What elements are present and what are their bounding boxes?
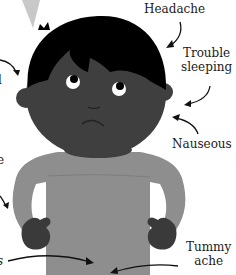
light-ray <box>22 0 40 28</box>
label-trouble-sleeping: Trouble sleeping <box>181 46 232 74</box>
right-mitten <box>147 217 176 249</box>
label-tummy-ache: Tummy ache <box>186 240 231 268</box>
label-trouble-sleeping-line2: sleeping <box>181 60 232 74</box>
trouble-sleeping-arrow <box>188 86 210 104</box>
left-eye <box>66 75 80 89</box>
right-eye <box>112 82 126 96</box>
label-left-fragment-1: l <box>0 73 2 87</box>
label-tummy-ache-line2: ache <box>186 254 231 268</box>
label-left-fragment-2: e <box>0 153 4 167</box>
label-left-fragment-3: s <box>0 254 3 268</box>
hair-tuft <box>38 22 50 30</box>
label-nauseous: Nauseous <box>172 137 232 151</box>
label-headache: Headache <box>144 2 205 16</box>
symptom-illustration: Headache Trouble sleeping Nauseous Tummy… <box>0 0 236 275</box>
nauseous-arrow <box>176 118 198 134</box>
label-trouble-sleeping-line1: Trouble <box>181 46 232 60</box>
left-mitten <box>22 217 51 249</box>
label-tummy-ache-line1: Tummy <box>186 240 231 254</box>
